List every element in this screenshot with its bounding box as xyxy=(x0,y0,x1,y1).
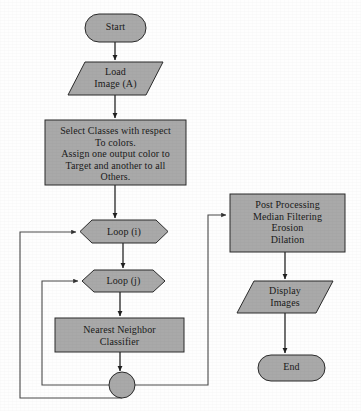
node-display-images xyxy=(237,281,333,313)
edge-junction-to-loop-i xyxy=(20,232,122,398)
flowchart-graphics xyxy=(0,0,361,411)
node-end xyxy=(258,355,325,381)
node-select-classes xyxy=(45,120,186,185)
node-post-processing xyxy=(230,194,345,252)
node-junction-connector xyxy=(109,372,135,398)
node-loop-j xyxy=(82,270,165,292)
node-loop-i xyxy=(80,220,168,243)
node-load-image xyxy=(68,62,163,95)
flowchart-canvas: Start Load Image (A) Select Classes with… xyxy=(0,0,361,411)
node-classifier xyxy=(55,318,184,352)
node-start xyxy=(85,14,146,42)
